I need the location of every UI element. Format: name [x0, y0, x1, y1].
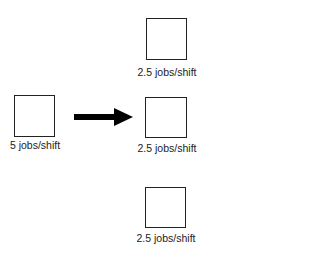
target-box-1	[146, 18, 187, 60]
target-box-3	[145, 187, 186, 228]
target-box-2	[145, 97, 187, 138]
target-label-3: 2.5 jobs/shift	[130, 232, 202, 244]
target-label-1: 2.5 jobs/shift	[131, 66, 203, 78]
target-label-2: 2.5 jobs/shift	[131, 142, 203, 154]
